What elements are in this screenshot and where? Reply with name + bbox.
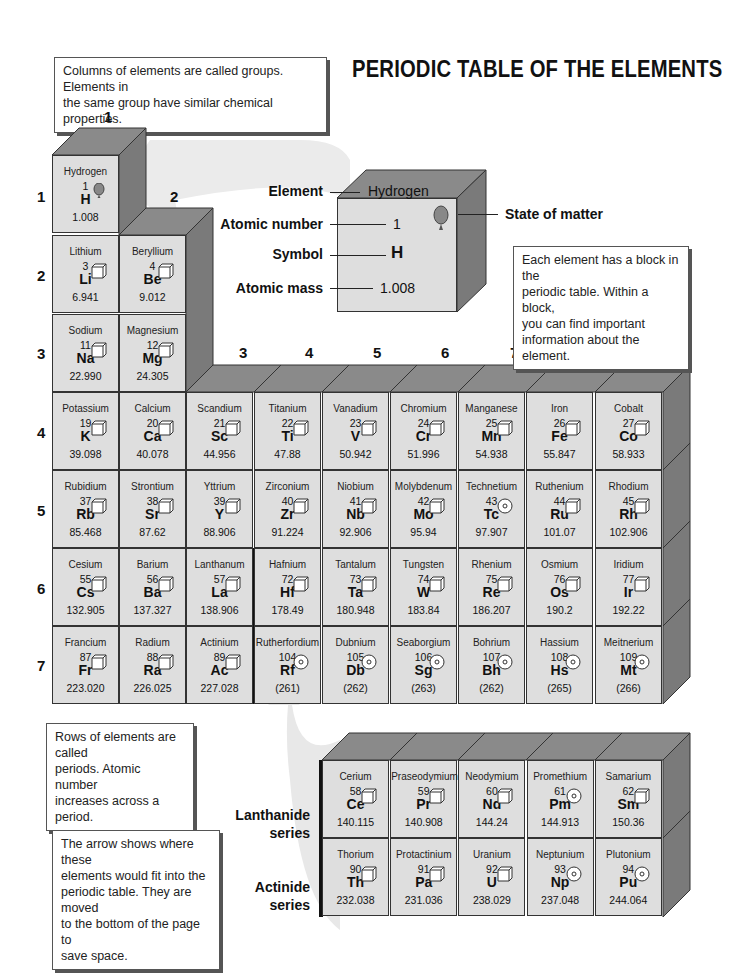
- key-atomic-mass-value: 1.008: [380, 280, 415, 296]
- solid-cube-icon: [158, 420, 174, 436]
- solid-cube-icon: [429, 420, 445, 436]
- element-cell-sg: Seaborgium106Sg(263): [390, 626, 457, 704]
- element-symbol: Hs: [527, 662, 592, 678]
- element-symbol: Mn: [459, 428, 524, 444]
- element-cell-hs: Hassium108Hs(265): [526, 626, 593, 704]
- element-symbol: Sg: [391, 662, 456, 678]
- atomic-mass: 140.115: [323, 816, 388, 828]
- element-name: Iridium: [596, 559, 661, 570]
- element-name: Potassium: [53, 403, 118, 414]
- element-cell-re: Rhenium75Re186.207: [458, 548, 525, 626]
- atomic-mass: 226.025: [120, 682, 185, 694]
- element-symbol: Pa: [391, 874, 456, 890]
- element-name: Rutherfordium: [255, 637, 320, 648]
- element-name: Promethium: [528, 771, 593, 782]
- element-cell-mn: Manganese25Mn54.938: [458, 392, 525, 470]
- atomic-mass: 144.913: [528, 816, 593, 828]
- element-name: Rhodium: [596, 481, 661, 492]
- element-symbol: Li: [53, 271, 118, 287]
- element-symbol: U: [459, 874, 524, 890]
- solid-cube-icon: [634, 576, 650, 592]
- element-symbol: Pm: [528, 796, 593, 812]
- element-symbol: Tc: [459, 506, 524, 522]
- element-cell-np: Neptunium93Np237.048: [527, 838, 594, 916]
- key-atomic-number-value: 1: [393, 216, 401, 232]
- element-symbol: Rh: [596, 506, 661, 522]
- element-cell-h: Hydrogen1H1.008: [52, 155, 119, 233]
- solid-cube-icon: [634, 498, 650, 514]
- element-symbol: Cr: [391, 428, 456, 444]
- atomic-mass: (262): [323, 682, 388, 694]
- atomic-mass: 138.906: [187, 604, 252, 616]
- element-symbol: Cs: [53, 584, 118, 600]
- element-symbol: Ca: [120, 428, 185, 444]
- element-symbol: Na: [53, 350, 118, 366]
- element-name: Hydrogen: [53, 166, 118, 177]
- key-atomic-number-label: Atomic number: [220, 216, 323, 232]
- atomic-mass: (265): [527, 682, 592, 694]
- element-cell-db: Dubnium105Db(262): [322, 626, 389, 704]
- element-cell-rh: Rhodium45Rh102.906: [595, 470, 662, 548]
- solid-cube-icon: [91, 263, 107, 279]
- element-symbol: Bh: [459, 662, 524, 678]
- solid-cube-icon: [634, 420, 650, 436]
- atomic-mass: 140.908: [391, 816, 456, 828]
- element-name: Samarium: [596, 771, 661, 782]
- atomic-mass: 183.84: [391, 604, 456, 616]
- element-name: Thorium: [323, 849, 388, 860]
- element-symbol: Os: [527, 584, 592, 600]
- atomic-mass: 6.941: [53, 291, 118, 303]
- atomic-mass: 97.907: [459, 526, 524, 538]
- solid-cube-icon: [565, 420, 581, 436]
- atomic-mass: 132.905: [53, 604, 118, 616]
- element-cell-mo: Molybdenum42Mo95.94: [390, 470, 457, 548]
- atomic-mass: 47.88: [255, 448, 320, 460]
- element-cell-sc: Scandium21Sc44.956: [186, 392, 253, 470]
- element-cell-hf: Hafnium72Hf178.49: [254, 548, 321, 626]
- element-symbol: Sm: [596, 796, 661, 812]
- solid-cube-icon: [429, 866, 445, 882]
- element-cell-ra: Radium88Ra226.025: [119, 626, 186, 704]
- solid-cube-icon: [361, 420, 377, 436]
- atomic-mass: 178.49: [255, 604, 320, 616]
- element-name: Dubnium: [323, 637, 388, 648]
- element-cell-nd: Neodymium60Nd144.24: [458, 760, 525, 838]
- element-symbol: Ra: [120, 662, 185, 678]
- element-symbol: Ba: [120, 584, 185, 600]
- key-atomic-mass-label: Atomic mass: [236, 280, 323, 296]
- atomic-mass: (261): [255, 682, 320, 694]
- atomic-mass: 244.064: [596, 894, 661, 906]
- element-cell-li: Lithium3Li6.941: [52, 235, 119, 313]
- element-symbol: Ti: [255, 428, 320, 444]
- element-cell-os: Osmium76Os190.2: [526, 548, 593, 626]
- solid-cube-icon: [293, 576, 309, 592]
- element-symbol: Ru: [527, 506, 592, 522]
- element-name: Praseodymium: [391, 771, 456, 782]
- element-cell-rf: Rutherfordium104Rf(261): [254, 626, 321, 704]
- solid-cube-icon: [361, 866, 377, 882]
- atomic-mass: 144.24: [459, 816, 524, 828]
- atomic-mass: 231.036: [391, 894, 456, 906]
- element-cell-ru: Ruthenium44Ru101.07: [526, 470, 593, 548]
- element-cell-pm: Promethium61Pm144.913: [527, 760, 594, 838]
- element-symbol: Co: [596, 428, 661, 444]
- atomic-mass: 58.933: [596, 448, 661, 460]
- element-name: Iron: [527, 403, 592, 414]
- atomic-mass: 232.038: [323, 894, 388, 906]
- element-name: Seaborgium: [391, 637, 456, 648]
- atomic-mass: 223.020: [53, 682, 118, 694]
- element-cell-bh: Bohrium107Bh(262): [458, 626, 525, 704]
- element-name: Magnesium: [120, 325, 185, 336]
- element-symbol: V: [323, 428, 388, 444]
- synthetic-icon: [293, 654, 309, 670]
- element-cell-zr: Zirconium40Zr91.224: [254, 470, 321, 548]
- solid-cube-icon: [361, 498, 377, 514]
- atomic-mass: (266): [596, 682, 661, 694]
- element-name: Cobalt: [596, 403, 661, 414]
- element-symbol: Ce: [323, 796, 388, 812]
- element-name: Ruthenium: [527, 481, 592, 492]
- element-cell-pr: Praseodymium59Pr140.908: [390, 760, 457, 838]
- synthetic-icon: [497, 498, 513, 514]
- atomic-mass: 40.078: [120, 448, 185, 460]
- element-symbol: Rb: [53, 506, 118, 522]
